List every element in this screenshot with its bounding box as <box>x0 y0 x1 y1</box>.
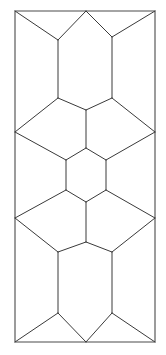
tiling-diagram <box>0 0 166 355</box>
figure-root <box>0 0 166 355</box>
